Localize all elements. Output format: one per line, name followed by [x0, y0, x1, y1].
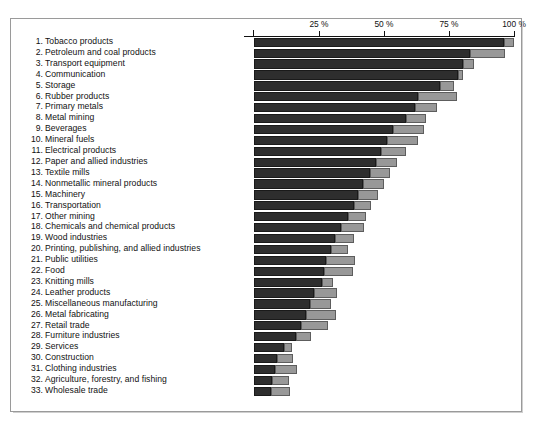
category-label-number: 30. [29, 352, 43, 363]
category-label-number: 10. [29, 134, 43, 145]
category-label-text: Knitting mills [45, 276, 94, 286]
category-label-number: 3. [29, 58, 43, 69]
bar-row [244, 321, 522, 332]
category-label: 5.Storage [29, 80, 243, 91]
category-label: 32.Agriculture, forestry, and fishing [29, 374, 243, 385]
category-label-number: 19. [29, 232, 43, 243]
bar-segment-light [322, 278, 334, 287]
category-label: 19.Wood industries [29, 232, 243, 243]
category-label-number: 29. [29, 341, 43, 352]
bar-segment-dark [254, 234, 335, 243]
x-axis-tick-label: 25 % [309, 19, 328, 29]
plot-area: 25 %50 %75 %100 % [244, 19, 522, 413]
bar-segment-dark [254, 38, 504, 47]
category-label: 27.Retail trade [29, 320, 243, 331]
bar-segment-light [310, 299, 331, 308]
bar-segment-dark [254, 332, 296, 341]
bar-row [244, 81, 522, 92]
bar-segment-light [348, 212, 366, 221]
bar-segment-light [275, 365, 297, 374]
category-label: 29.Services [29, 341, 243, 352]
category-label-text: Nonmetallic mineral products [45, 178, 157, 188]
category-label-text: Rubber products [45, 91, 109, 101]
bar-segment-light [284, 343, 292, 352]
bar-row [244, 190, 522, 201]
bar-segment-light [463, 59, 473, 68]
bar-row [244, 135, 522, 146]
category-label-text: Tobacco products [45, 36, 113, 46]
category-label-number: 22. [29, 265, 43, 276]
category-label: 14.Nonmetallic mineral products [29, 178, 243, 189]
category-label-number: 20. [29, 243, 43, 254]
bar-row [244, 288, 522, 299]
category-label-number: 16. [29, 200, 43, 211]
bar-row [244, 277, 522, 288]
category-label: 8.Metal mining [29, 112, 243, 123]
bar-row [244, 212, 522, 223]
category-label-text: Metal fabricating [45, 309, 109, 319]
bar-segment-dark [254, 158, 376, 167]
category-label: 7.Primary metals [29, 101, 243, 112]
bar-row [244, 124, 522, 135]
bar-row [244, 353, 522, 364]
bar-row [244, 168, 522, 179]
bar-segment-light [470, 49, 505, 58]
bar-segment-dark [254, 387, 271, 396]
category-label-text: Agriculture, forestry, and fishing [45, 374, 167, 384]
bar-row [244, 364, 522, 375]
bar-row [244, 146, 522, 157]
bar-segment-light [272, 376, 289, 385]
bar-row [244, 92, 522, 103]
bar-segment-light [376, 158, 397, 167]
category-label-text: Other mining [45, 211, 95, 221]
category-label: 30.Construction [29, 352, 243, 363]
bar-segment-light [341, 223, 364, 232]
category-label-text: Mineral fuels [45, 134, 94, 144]
category-label: 25.Miscellaneous manufacturing [29, 298, 243, 309]
bar-row [244, 244, 522, 255]
category-label: 28.Furniture industries [29, 330, 243, 341]
category-label-number: 24. [29, 287, 43, 298]
bar-segment-dark [254, 201, 354, 210]
category-label: 4.Communication [29, 69, 243, 80]
bar-segment-light [277, 354, 293, 363]
bar-row [244, 310, 522, 321]
bar-row [244, 48, 522, 59]
bar-segment-dark [254, 136, 387, 145]
category-label-number: 7. [29, 101, 43, 112]
bar-segment-light [415, 103, 437, 112]
bar-segment-dark [254, 321, 301, 330]
category-label: 2.Petroleum and coal products [29, 47, 243, 58]
category-label-text: Printing, publishing, and allied industr… [45, 243, 201, 253]
category-label-text: Clothing industries [45, 363, 117, 373]
category-label-number: 33. [29, 385, 43, 396]
bar-segment-dark [254, 376, 272, 385]
category-label-text: Transportation [45, 200, 101, 210]
category-label-number: 1. [29, 36, 43, 47]
category-label: 6.Rubber products [29, 91, 243, 102]
bar-segment-dark [254, 114, 406, 123]
bar-segment-dark [254, 103, 415, 112]
category-label-number: 4. [29, 69, 43, 80]
category-label-text: Construction [45, 352, 94, 362]
category-label-text: Transport equipment [45, 58, 125, 68]
x-axis-tick-label: 100 % [502, 19, 526, 29]
bar-segment-light [306, 310, 336, 319]
bar-row [244, 157, 522, 168]
bar-segment-light [458, 70, 463, 79]
bar-row [244, 102, 522, 113]
bar-segment-dark [254, 354, 277, 363]
category-label: 18.Chemicals and chemical products [29, 221, 243, 232]
x-axis-tick-label: 75 % [439, 19, 458, 29]
x-axis-tick-label: 50 % [374, 19, 393, 29]
bar-segment-dark [254, 49, 470, 58]
bar-row [244, 37, 522, 48]
category-label-number: 28. [29, 330, 43, 341]
category-label-number: 14. [29, 178, 43, 189]
category-label-text: Machinery [45, 189, 85, 199]
bar-segment-dark [254, 81, 440, 90]
bar-segment-light [358, 190, 378, 199]
bar-segment-dark [254, 288, 314, 297]
bar-segment-dark [254, 59, 463, 68]
category-label: 12.Paper and allied industries [29, 156, 243, 167]
